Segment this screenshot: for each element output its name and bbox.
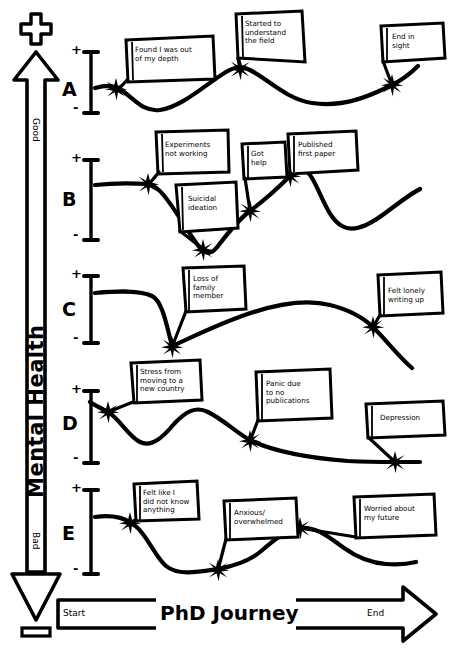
note-card-shape — [218, 498, 298, 570]
series-curve-c — [95, 291, 412, 368]
scale-bracket-a — [84, 52, 98, 113]
note-card-shape — [300, 494, 436, 538]
y-axis-bad-label: Bad — [31, 532, 41, 549]
row-label-c: C — [62, 298, 76, 320]
scale-plus-d: + — [71, 382, 82, 395]
y-axis-title: Mental Health — [24, 325, 48, 499]
scale-plus-b: + — [71, 151, 82, 164]
row-label-e: E — [62, 522, 75, 544]
scale-bracket-b — [84, 160, 98, 240]
phd-journey-mental-health-chart: Mental Health Good Bad A B C D E + - + -… — [0, 0, 455, 657]
x-axis-start-label: Start — [63, 608, 85, 618]
scale-plus-e: + — [71, 481, 82, 494]
row-label-b: B — [62, 188, 76, 210]
scale-minus-c: - — [73, 331, 78, 344]
note-card-shape — [130, 481, 199, 523]
note-card-shape — [250, 369, 332, 441]
scale-minus-b: - — [73, 228, 78, 241]
note-card-shape — [373, 272, 443, 327]
scale-bracket-c — [84, 276, 98, 343]
row-label-d: D — [62, 412, 78, 434]
row-label-a: A — [62, 78, 77, 100]
scale-minus-e: - — [73, 562, 78, 575]
x-axis-title: PhD Journey — [160, 601, 299, 625]
note-card-shape — [176, 182, 238, 249]
scale-bracket-e — [84, 490, 98, 574]
note-card-shape — [236, 11, 305, 70]
note-card-shape — [288, 131, 358, 176]
note-card-shape — [172, 266, 246, 347]
note-card-shape — [381, 23, 445, 85]
note-card-shape — [149, 130, 229, 184]
x-axis-end-label: End — [367, 608, 384, 618]
scale-minus-a: - — [73, 101, 78, 114]
note-card-shape — [108, 360, 202, 412]
y-axis-good-label: Good — [31, 118, 41, 142]
note-card-shape — [366, 401, 445, 462]
note-card-shape — [118, 36, 215, 90]
scale-plus-c: + — [71, 267, 82, 280]
scale-minus-d: - — [73, 451, 78, 464]
row-scale-brackets — [84, 52, 98, 574]
scale-plus-a: + — [71, 43, 82, 56]
